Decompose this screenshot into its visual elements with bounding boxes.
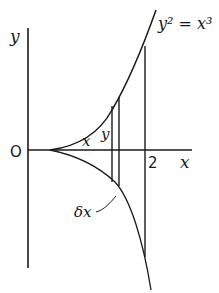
- x-tick-label-2: 2: [148, 154, 158, 172]
- strip-x-label: x: [82, 132, 91, 150]
- origin-label: O: [10, 143, 22, 161]
- strip-y-label: y: [100, 125, 110, 143]
- dx-leader-line: [96, 196, 116, 212]
- curve-equation-label: y² = x³: [157, 14, 212, 33]
- curve-lower-branch: [50, 150, 151, 290]
- delta-x-label: δx: [74, 203, 92, 221]
- diagram-canvas: y O 2 x x y δx y² = x³: [0, 0, 219, 293]
- y-axis-label: y: [9, 26, 20, 46]
- x-axis-label: x: [180, 152, 190, 172]
